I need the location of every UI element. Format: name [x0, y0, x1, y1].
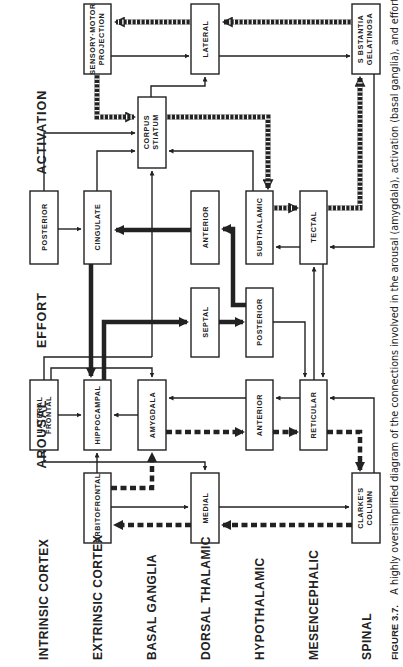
node-label: GELATINOSA	[365, 13, 374, 66]
arrow-posterior-to-corpus	[44, 133, 135, 191]
node-label: STIATUM	[151, 114, 160, 150]
node-anterior-hypothalamic: ANTERIOR	[246, 380, 273, 450]
node-label: MEDIAL	[201, 492, 210, 523]
row-label-hypothalamic: HYPOTHALAMIC	[253, 557, 267, 660]
dashed-arrow-reticular-to-clarkes	[327, 432, 360, 470]
node-reticular: RETICULAR	[300, 380, 327, 450]
node-lateral-thalamic: LATERAL	[191, 4, 219, 74]
column-label-effort: EFFORT	[35, 292, 49, 348]
node-septal: SEPTAL	[191, 288, 219, 357]
row-labels: INTRINSIC CORTEX EXTRINSIC CORTEX BASAL …	[37, 535, 374, 660]
node-label: COLUMN	[365, 490, 374, 525]
node-label: LATERAL	[201, 20, 210, 57]
row-label-mesencephalic: MESENCEPHALIC	[307, 549, 321, 660]
brain-connections-diagram: SENSORY·MOTOR PROJECTION LATERAL S BSTAN…	[0, 0, 403, 667]
node-clarkes-column: CLARKE'S COLUMN	[352, 473, 380, 543]
node-label: S BSTANTIA	[356, 15, 365, 64]
node-amygdala: AMYGDALA	[138, 380, 166, 450]
node-cingulate: CINGULATE	[84, 191, 111, 264]
node-medial: MEDIAL	[191, 473, 219, 543]
row-label-extrinsic-cortex: EXTRINSIC CORTEX	[91, 535, 105, 660]
node-tectal: TECTAL	[300, 191, 327, 264]
node-hippocampal: HIPPOCAMPAL	[84, 380, 111, 450]
line-hippocampal-bus	[44, 450, 205, 470]
node-label: RETICULAR	[309, 391, 318, 438]
node-posterior-cortex: POSTERIOR	[30, 191, 58, 264]
arrow-subthalamic-to-corpus	[169, 151, 253, 191]
hatched-arrow-tectal-to-substantia	[327, 78, 360, 208]
node-label: SUBTHALAMIC	[255, 197, 264, 256]
column-label-activation: ACTIVATION	[35, 90, 49, 175]
node-posterior-hypothalamic: POSTERIOR	[246, 288, 273, 357]
node-corpus-stiatum: CORPUS STIATUM	[138, 97, 166, 168]
node-label: POSTERIOR	[40, 203, 49, 251]
row-label-basal-ganglia: BASAL GANGLIA	[145, 554, 159, 660]
node-label: POSTERIOR	[255, 298, 264, 346]
row-label-spinal: SPINAL	[360, 613, 374, 660]
node-label: CINGULATE	[93, 204, 102, 251]
hatched-arrow-sensory-to-corpus	[97, 74, 134, 117]
dashed-arrow-orbitofrontal-to-amygdala	[111, 454, 152, 488]
arrow-corpus-to-lateral	[151, 77, 205, 97]
node-label: SENSORY·MOTOR	[88, 3, 97, 75]
node-label: AMYGDALA	[148, 392, 157, 438]
arrow-clarkes-to-reticular	[330, 398, 374, 473]
figure-label: FIGURE 3.7.	[389, 605, 400, 660]
thick-arrow-posterior-to-anterior	[223, 229, 246, 305]
arrow-cingulate-to-corpus	[97, 151, 135, 191]
node-label: ORBITOFRONTAL	[93, 473, 102, 542]
node-anterior-thalamic: ANTERIOR	[191, 191, 219, 264]
node-label: TECTAL	[309, 211, 318, 242]
node-label: ANTERIOR	[201, 206, 210, 249]
node-sensory-motor-projection: SENSORY·MOTOR PROJECTION	[84, 3, 111, 75]
node-subthalamic: SUBTHALAMIC	[246, 191, 273, 264]
node-label: CORPUS	[142, 115, 151, 149]
node-label: PROJECTION	[97, 13, 106, 66]
column-labels: ACTIVATION EFFORT AROUSAL	[35, 90, 49, 469]
node-label: ANTERIOR	[255, 394, 264, 437]
arrow-bus-to-amygdala	[51, 368, 152, 380]
arrow-posterior-to-reticular	[273, 322, 305, 377]
thick-arrow-hippocampal-to-septal	[104, 322, 187, 380]
node-label: CLARKE'S	[356, 487, 365, 528]
caption-text: A highly oversimplified diagram of the c…	[389, 0, 400, 595]
svg-text:FIGURE 3.7. A highly ove: FIGURE 3.7. A highly oversimplified diag…	[384, 0, 401, 660]
node-label: HIPPOCAMPAL	[93, 385, 102, 444]
figure-caption: FIGURE 3.7. A highly oversimplified diag…	[384, 0, 401, 660]
node-substantia-gelatinosa: S BSTANTIA GELATINOSA	[352, 4, 380, 74]
row-label-dorsal-thalamic: DORSAL THALAMIC	[199, 536, 213, 660]
row-label-intrinsic-cortex: INTRINSIC CORTEX	[37, 539, 51, 660]
arrow-substantia-to-tectal	[330, 74, 374, 247]
column-label-arousal: AROUSAL	[35, 400, 49, 469]
node-orbitofrontal: ORBITOFRONTAL	[84, 473, 111, 543]
node-label: SEPTAL	[201, 306, 210, 337]
